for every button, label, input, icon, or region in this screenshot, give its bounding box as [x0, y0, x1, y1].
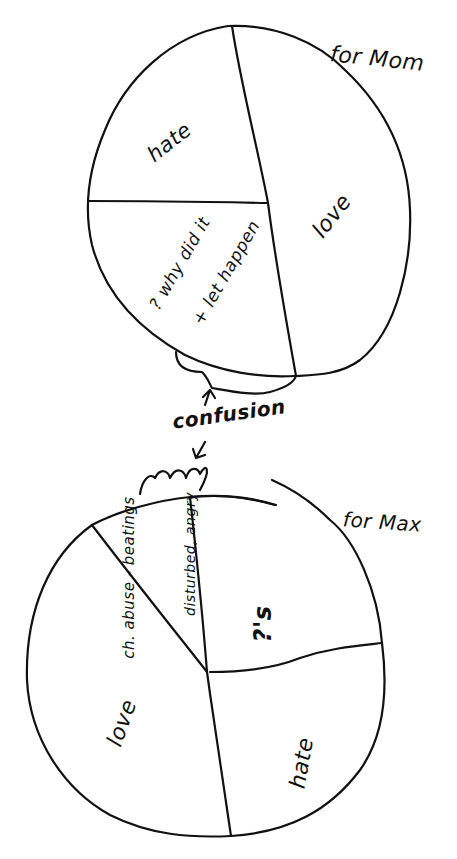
mom-divider-vertical — [232, 26, 296, 376]
max-slice-disturbed-label: disturbed, angry — [183, 492, 197, 616]
max-pie — [27, 468, 385, 837]
arrow-up-icon — [203, 390, 215, 405]
max-confusion-squiggle — [140, 468, 207, 494]
hand-drawn-pie-charts — [0, 0, 457, 859]
mom-divider-horizontal — [88, 201, 268, 203]
max-divider-bottom — [207, 672, 231, 836]
max-slice-abuse-label: ch. abuse - beatings — [122, 496, 137, 658]
mom-pie — [88, 26, 410, 394]
arrow-down-icon — [193, 442, 205, 458]
max-slice-questions-label: ?'s — [251, 605, 275, 642]
max-divider-right — [210, 643, 382, 672]
max-chart-title: for Max — [342, 509, 422, 534]
